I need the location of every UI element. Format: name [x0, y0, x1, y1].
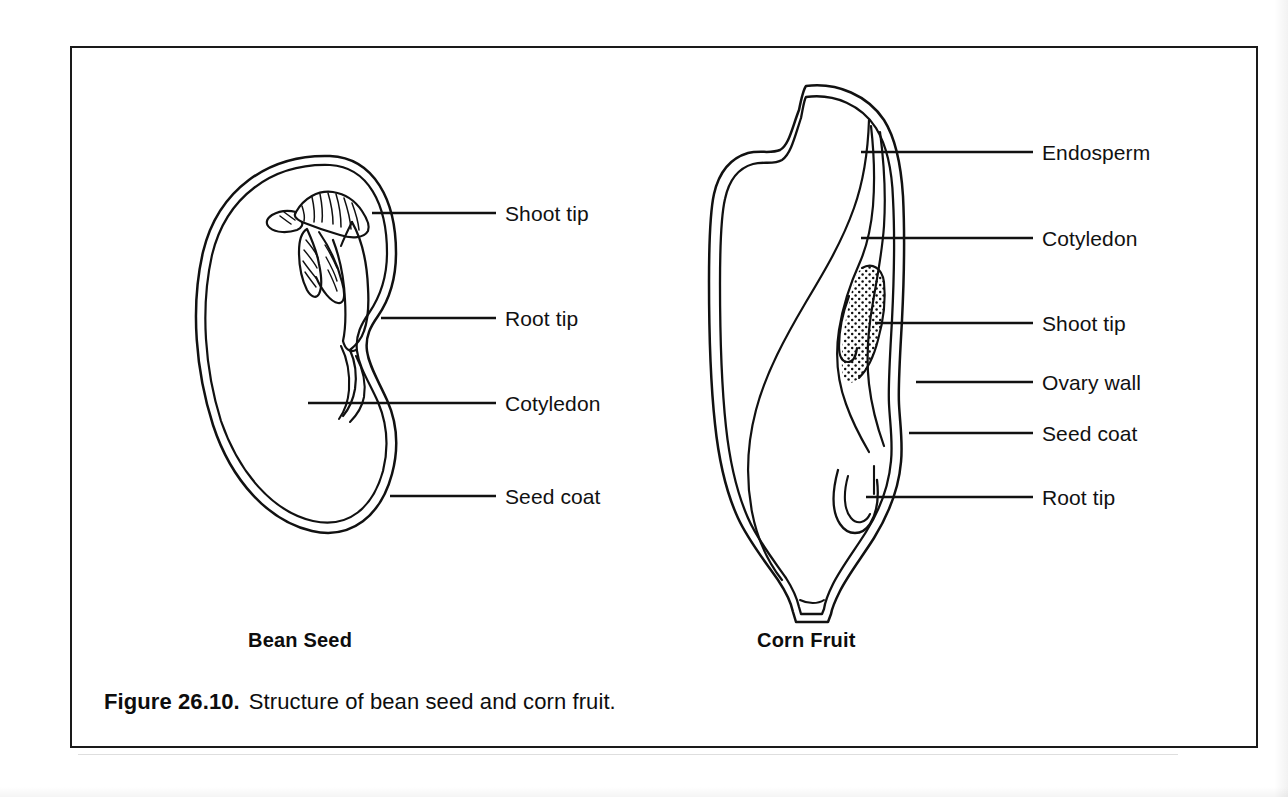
bean-seed-label-cotyledon: Cotyledon	[505, 393, 600, 414]
corn-fruit-label-shoot-tip: Shoot tip	[1042, 313, 1126, 334]
scan-edge-right	[1274, 0, 1288, 797]
figure-caption: Figure 26.10.Structure of bean seed and …	[104, 688, 616, 716]
bean-seed-label-root-tip: Root tip	[505, 308, 578, 329]
figure-page: Shoot tipRoot tipCotyledonSeed coatEndos…	[0, 0, 1288, 797]
scan-rule	[78, 754, 1178, 755]
corn-fruit-label-seed-coat: Seed coat	[1042, 423, 1137, 444]
corn-fruit-label-ovary-wall: Ovary wall	[1042, 372, 1141, 393]
figure-caption-text: Structure of bean seed and corn fruit.	[249, 689, 616, 714]
corn-fruit-label-cotyledon: Cotyledon	[1042, 228, 1137, 249]
corn-fruit-title: Corn Fruit	[757, 629, 856, 652]
corn-fruit-label-root-tip: Root tip	[1042, 487, 1115, 508]
bean-seed-label-shoot-tip: Shoot tip	[505, 203, 589, 224]
scan-edge-bottom	[0, 787, 1288, 797]
figure-number: Figure 26.10.	[104, 689, 240, 714]
corn-fruit-label-endosperm: Endosperm	[1042, 142, 1150, 163]
bean-seed-title: Bean Seed	[248, 629, 352, 652]
bean-seed-label-seed-coat: Seed coat	[505, 486, 600, 507]
